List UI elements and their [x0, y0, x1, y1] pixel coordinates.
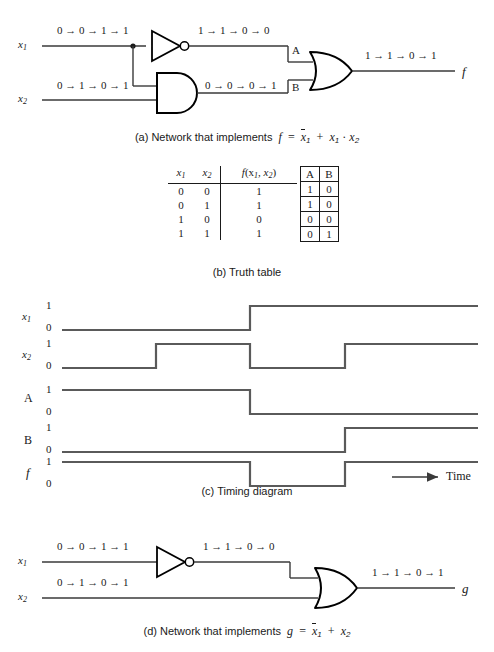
wire-value-not-d: 1 → 1 → 0 → 0	[203, 540, 275, 552]
cell-x1: 1	[168, 212, 194, 226]
timing-level-low-x2: 0	[46, 359, 52, 371]
label-x2-input-a: x2	[18, 92, 27, 106]
header-f: f(x1, x2)	[221, 166, 298, 180]
label-f-output-a: f	[462, 64, 466, 80]
not-gate-bubble-d	[185, 558, 193, 566]
caption-panel-b: (b) Truth table	[0, 266, 494, 278]
table-row: 0 1	[301, 227, 339, 242]
timing-level-low-b: 0	[46, 443, 52, 455]
table-row: 0 1 1	[168, 198, 297, 212]
timing-level-low-x1: 0	[46, 321, 52, 333]
waveform-x1	[62, 306, 478, 330]
and-gate-a	[157, 73, 197, 113]
wire-value-x2-d: 0 → 1 → 0 → 1	[57, 576, 129, 588]
timing-level-high-b: 1	[46, 421, 52, 433]
header-x1: x1	[168, 166, 194, 180]
cell-f: 1	[221, 184, 298, 199]
table-row: 1 1 1	[168, 226, 297, 240]
node-label-b: B	[292, 81, 299, 93]
wire-value-x1-d: 0 → 0 → 1 → 1	[57, 540, 129, 552]
waveform-x2	[62, 344, 478, 368]
panel-c-timing	[62, 306, 478, 486]
wire-value-x2-a: 0 → 1 → 0 → 1	[57, 79, 129, 91]
cell-b: 0	[320, 197, 339, 212]
timing-level-low-a: 0	[46, 405, 52, 417]
timing-level-high-x2: 1	[46, 337, 52, 349]
cell-x1: 0	[168, 198, 194, 212]
figure-svg	[0, 0, 494, 652]
cell-x1: 1	[168, 226, 194, 240]
ab-table: A B 1 0 1 0 0 0 0 1	[300, 166, 339, 242]
cell-x1: 0	[168, 184, 194, 199]
label-x1-input-a: x1	[18, 38, 27, 52]
not-gate-a	[152, 31, 180, 61]
cell-a: 1	[301, 197, 320, 212]
caption-panel-d: (d) Network that implements g = x1 + x2	[0, 624, 494, 639]
or-gate-d	[315, 568, 357, 608]
table-row: 1 0	[301, 197, 339, 212]
timing-label-b: B	[24, 433, 32, 448]
or-gate-a	[310, 52, 352, 90]
label-x2-input-d: x2	[18, 590, 27, 604]
label-g-output-d: g	[462, 581, 469, 597]
wire-value-g-d: 1 → 1 → 0 → 1	[372, 566, 444, 578]
truth-table-header-row: x1 x2 f(x1, x2)	[168, 166, 297, 180]
timing-label-x2: x2	[22, 348, 31, 362]
cell-f: 0	[221, 212, 298, 226]
wire-value-x1-a: 0 → 0 → 1 → 1	[57, 24, 129, 36]
wire-value-and-a: 0 → 0 → 0 → 1	[205, 79, 277, 91]
waveform-b	[62, 428, 478, 452]
timing-level-high-x1: 1	[46, 299, 52, 311]
cell-x2: 1	[194, 226, 221, 240]
table-row: 1 0	[301, 182, 339, 197]
ab-header-row: A B	[301, 167, 339, 182]
cell-a: 0	[301, 227, 320, 242]
cell-f: 1	[221, 226, 298, 240]
table-row: 0 0	[301, 212, 339, 227]
waveform-a	[62, 390, 478, 414]
cell-b: 0	[320, 212, 339, 227]
caption-panel-c: (c) Timing diagram	[0, 485, 494, 497]
header-x2: x2	[194, 166, 221, 180]
label-x1-input-d: x1	[18, 554, 27, 568]
timing-level-high-a: 1	[46, 383, 52, 395]
caption-panel-a: (a) Network that implements f = x1 + x1 …	[0, 130, 494, 145]
wire-value-f-a: 1 → 1 → 0 → 1	[365, 49, 437, 61]
cell-b: 1	[320, 227, 339, 242]
header-a: A	[301, 167, 320, 182]
not-gate-d	[157, 547, 185, 577]
panel-a-circuit	[42, 31, 455, 113]
cell-f: 1	[221, 198, 298, 212]
timing-label-f: f	[26, 465, 30, 481]
waveform-f	[62, 462, 478, 486]
cell-x2: 0	[194, 184, 221, 199]
wire-value-not-a: 1 → 1 → 0 → 0	[198, 24, 270, 36]
cell-x2: 0	[194, 212, 221, 226]
timing-label-x1: x1	[22, 310, 31, 324]
not-gate-bubble-a	[180, 42, 188, 50]
cell-a: 0	[301, 212, 320, 227]
table-row: 1 0 0	[168, 212, 297, 226]
node-label-a: A	[292, 44, 300, 56]
figure-root: x1 x2 0 → 0 → 1 → 1 0 → 1 → 0 → 1 1 → 1 …	[0, 0, 494, 652]
timing-level-high-f: 1	[46, 455, 52, 467]
time-axis-label: Time	[446, 469, 471, 484]
table-row: 0 0 1	[168, 184, 297, 199]
cell-x2: 1	[194, 198, 221, 212]
cell-b: 0	[320, 182, 339, 197]
truth-table: x1 x2 f(x1, x2) 0 0 1 0 1	[168, 166, 297, 240]
cell-a: 1	[301, 182, 320, 197]
timing-label-a: A	[24, 391, 33, 406]
header-b: B	[320, 167, 339, 182]
truth-table-main: x1 x2 f(x1, x2) 0 0 1 0 1	[168, 166, 297, 240]
